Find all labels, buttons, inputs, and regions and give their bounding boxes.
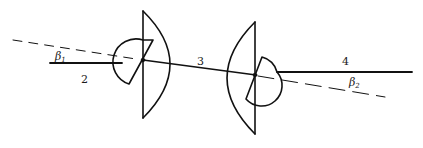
- left-joint-large-arc: [143, 11, 170, 118]
- reference-line-beta1: [13, 40, 136, 59]
- right-joint-pivot: [253, 73, 257, 77]
- reference-line-beta2: [258, 76, 385, 97]
- right-joint-small-semicircle: [246, 57, 282, 106]
- label-shaft-3: 3: [197, 55, 204, 68]
- label-shaft-2: 2: [81, 73, 88, 86]
- left-joint-small-semicircle: [113, 39, 153, 84]
- diagram-canvas: β1 2 3 4 β2: [0, 0, 423, 148]
- label-shaft-4: 4: [342, 55, 349, 68]
- label-beta1: β1: [54, 50, 66, 64]
- label-beta2: β2: [348, 76, 360, 90]
- right-joint-large-arc: [227, 22, 255, 134]
